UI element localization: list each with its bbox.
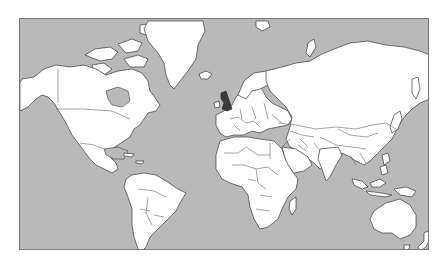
united-kingdom <box>221 91 232 111</box>
svalbard <box>256 21 270 31</box>
indonesia <box>352 165 392 197</box>
madagascar <box>289 197 296 215</box>
india <box>318 147 342 181</box>
greenland <box>144 21 205 89</box>
world-map <box>19 18 429 250</box>
landmasses <box>20 21 429 250</box>
iceland <box>199 71 212 79</box>
ireland <box>214 101 220 108</box>
caribbean-islands <box>124 153 144 164</box>
new-zealand <box>418 231 429 250</box>
tasmania <box>404 245 410 250</box>
south-america <box>124 173 186 250</box>
world-map-svg <box>20 19 429 250</box>
new-guinea <box>394 187 416 197</box>
novaya-zemlya <box>306 39 316 57</box>
north-america <box>20 65 160 173</box>
philippines <box>382 153 390 165</box>
australia <box>370 199 416 239</box>
